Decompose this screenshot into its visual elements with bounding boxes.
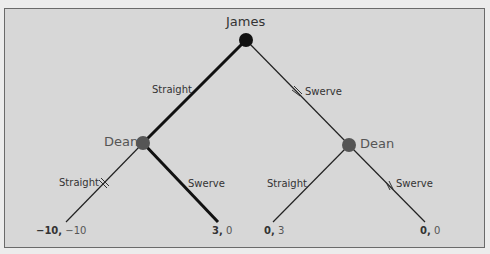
payoff-dean: −10 bbox=[65, 225, 86, 236]
payoff-james: 0, bbox=[264, 225, 275, 236]
branch-label-james-swerve: Swerve bbox=[305, 86, 342, 97]
payoff-james: −10, bbox=[36, 225, 62, 236]
game-tree-edges bbox=[0, 0, 490, 254]
payoff-dean: 3 bbox=[278, 225, 284, 236]
player-label-james: James bbox=[226, 14, 265, 29]
payoff-swerve-swerve: 0, 0 bbox=[420, 225, 440, 236]
payoff-straight-swerve: 3, 0 bbox=[212, 225, 232, 236]
branch-label-james-straight: Straight bbox=[152, 84, 192, 95]
node-james bbox=[239, 33, 253, 47]
payoff-dean: 0 bbox=[226, 225, 232, 236]
branch-label-dean-left-straight: Straight bbox=[59, 177, 99, 188]
payoff-swerve-straight: 0, 3 bbox=[264, 225, 284, 236]
payoff-james: 0, bbox=[420, 225, 431, 236]
prune-mark-james-swerve bbox=[292, 86, 302, 96]
payoff-dean: 0 bbox=[434, 225, 440, 236]
branch-label-dean-right-straight: Straight bbox=[267, 178, 307, 189]
branch-label-dean-left-swerve: Swerve bbox=[188, 178, 225, 189]
player-label-dean-left: Dean bbox=[104, 134, 138, 149]
node-dean-right bbox=[342, 138, 356, 152]
branch-label-dean-right-swerve: Swerve bbox=[396, 178, 433, 189]
payoff-straight-straight: −10, −10 bbox=[36, 225, 86, 236]
player-label-dean-right: Dean bbox=[360, 136, 394, 151]
payoff-james: 3, bbox=[212, 225, 223, 236]
